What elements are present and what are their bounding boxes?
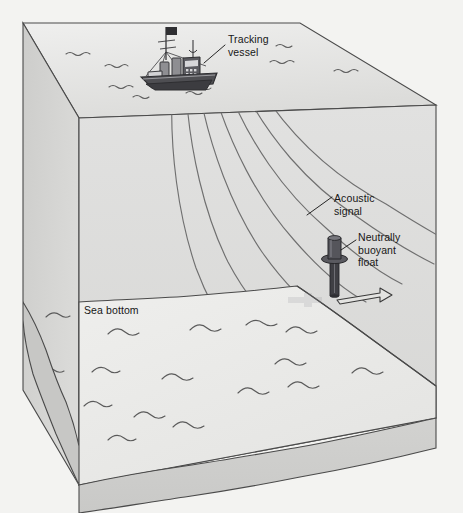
diagram-canvas: Tracking vessel Acoustic signal Neutrall… — [0, 0, 463, 513]
ocean-block-diagram-svg — [0, 0, 463, 513]
sea-surface-top-face — [23, 23, 436, 118]
